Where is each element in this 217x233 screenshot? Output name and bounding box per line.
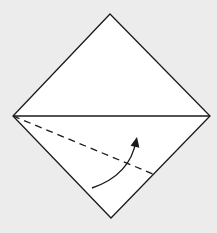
diagram-svg xyxy=(0,0,217,233)
origami-diagram xyxy=(0,0,217,233)
